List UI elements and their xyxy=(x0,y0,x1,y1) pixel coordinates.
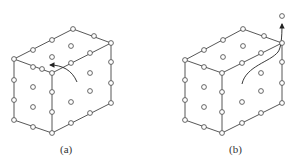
nodes-a xyxy=(12,27,114,136)
nodes-b xyxy=(183,14,285,136)
box-a xyxy=(14,29,111,133)
box-b xyxy=(185,29,282,133)
diagram-canvas xyxy=(0,0,295,163)
caption-a: (a) xyxy=(60,143,72,155)
caption-b: (b) xyxy=(229,143,242,155)
